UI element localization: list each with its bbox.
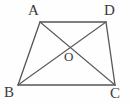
vertex-label-c: C — [110, 86, 120, 101]
vertex-label-d: D — [104, 3, 115, 18]
segment-ab — [18, 22, 40, 85]
vertex-label-o: O — [64, 50, 73, 63]
geometry-figure: A D B C O — [0, 0, 131, 106]
segment-ac — [40, 22, 115, 85]
segment-bd — [18, 22, 106, 85]
segment-dc — [106, 22, 115, 85]
vertex-label-b: B — [4, 85, 14, 100]
vertex-label-a: A — [28, 3, 39, 18]
